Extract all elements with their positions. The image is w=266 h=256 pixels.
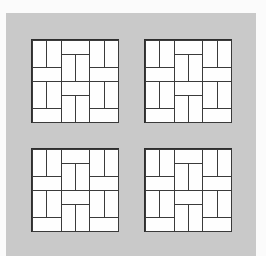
brick-vertical [104,149,119,177]
brick-vertical [202,81,217,109]
brick-horizontal [145,67,175,82]
brick-vertical [75,54,90,82]
brick-horizontal [174,149,204,164]
brick-vertical [174,54,189,82]
brick-vertical [202,149,217,177]
brick-horizontal [89,108,119,123]
brick-horizontal [202,108,232,123]
brick-horizontal [61,81,91,96]
brick-horizontal [61,190,91,205]
brick-horizontal [202,217,232,232]
brick-vertical [202,40,217,68]
brick-vertical [89,149,104,177]
brick-vertical [61,95,76,123]
brick-vertical [174,204,189,232]
brick-horizontal [32,217,62,232]
brick-vertical [75,204,90,232]
tile-bottom-right [145,149,231,231]
brick-horizontal [174,40,204,55]
brick-vertical [61,54,76,82]
brick-vertical [46,190,61,218]
brick-vertical [89,40,104,68]
brick-vertical [174,95,189,123]
brick-vertical [32,40,47,68]
brick-vertical [32,149,47,177]
brick-horizontal [145,108,175,123]
brick-vertical [217,81,232,109]
brick-vertical [188,95,203,123]
brick-vertical [145,190,160,218]
brick-vertical [145,40,160,68]
brick-vertical [89,81,104,109]
brick-horizontal [202,67,232,82]
brick-horizontal [145,176,175,191]
brick-vertical [104,40,119,68]
brick-horizontal [145,217,175,232]
brick-vertical [46,149,61,177]
brick-horizontal [89,217,119,232]
brick-vertical [75,95,90,123]
brick-vertical [159,81,174,109]
brick-horizontal [174,190,204,205]
brick-vertical [202,190,217,218]
brick-horizontal [89,67,119,82]
brick-vertical [61,204,76,232]
brick-vertical [188,204,203,232]
brick-vertical [32,190,47,218]
brick-vertical [104,81,119,109]
brick-vertical [188,163,203,191]
brick-vertical [174,163,189,191]
brick-vertical [217,40,232,68]
brick-vertical [159,149,174,177]
brick-vertical [89,190,104,218]
tile-bottom-left [32,149,118,231]
brick-horizontal [32,176,62,191]
brick-horizontal [61,40,91,55]
brick-vertical [32,81,47,109]
brick-vertical [145,149,160,177]
brick-vertical [159,40,174,68]
brick-vertical [46,81,61,109]
brick-vertical [159,190,174,218]
brick-vertical [188,54,203,82]
brick-horizontal [61,149,91,164]
brick-horizontal [174,81,204,96]
brick-horizontal [89,176,119,191]
tile-top-right [145,40,231,122]
tile-top-left [32,40,118,122]
brick-vertical [217,190,232,218]
brick-horizontal [32,108,62,123]
brick-vertical [46,40,61,68]
brick-vertical [217,149,232,177]
brick-vertical [145,81,160,109]
brick-horizontal [202,176,232,191]
brick-vertical [104,190,119,218]
brick-vertical [61,163,76,191]
brick-vertical [75,163,90,191]
brick-horizontal [32,67,62,82]
